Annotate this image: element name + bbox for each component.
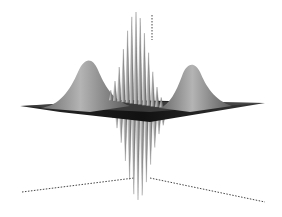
- fringe-up: [121, 49, 125, 102]
- right-gaussian-peak: [160, 65, 232, 112]
- fringe-down: [140, 113, 144, 196]
- fringe-up: [117, 67, 121, 102]
- fringe-up: [134, 12, 138, 104]
- fringe-up: [113, 81, 117, 101]
- fringe-up: [126, 31, 130, 103]
- fringe-down: [132, 111, 136, 194]
- fringe-up: [151, 72, 155, 107]
- lower-fringes: [111, 108, 165, 200]
- left-gaussian-peak: [40, 60, 130, 112]
- fringe-up: [138, 18, 142, 105]
- fringe-down: [136, 112, 140, 200]
- fringe-up: [147, 53, 151, 106]
- fringe-down: [144, 113, 148, 182]
- upper-fringes: [109, 12, 163, 108]
- fringe-down: [128, 111, 132, 180]
- fringe-up: [142, 33, 146, 105]
- axis-right: [150, 178, 265, 202]
- surface-plot: [0, 0, 282, 217]
- fringe-up: [130, 17, 134, 104]
- fringe-up: [155, 87, 159, 107]
- axis-left: [22, 178, 134, 192]
